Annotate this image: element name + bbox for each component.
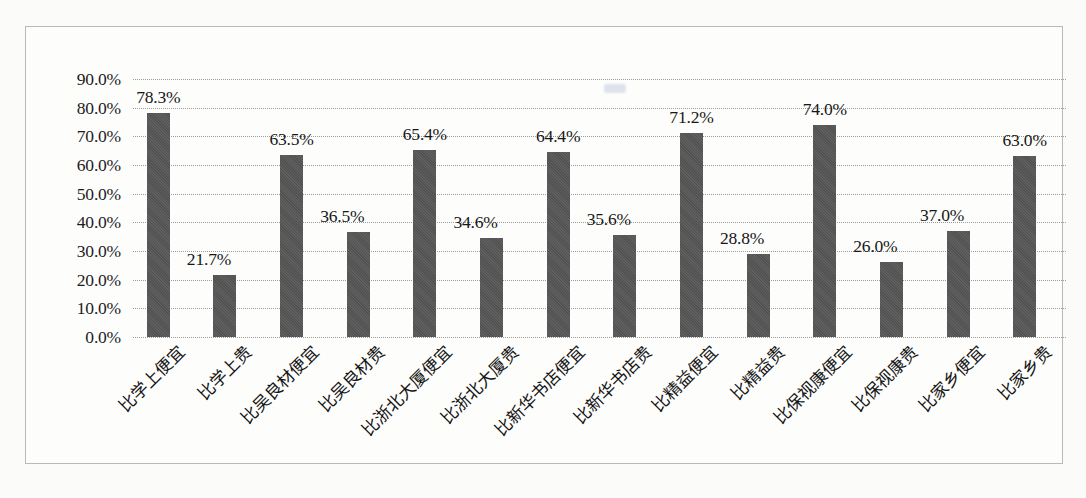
bar-value-label: 63.5% — [269, 129, 313, 150]
bar-value-label: 28.8% — [720, 228, 764, 249]
bar[interactable] — [480, 238, 503, 337]
y-axis: 0.0%10.0%20.0%30.0%40.0%50.0%60.0%70.0%8… — [51, 79, 127, 337]
gridline — [133, 251, 1066, 252]
bar-value-label: 36.5% — [320, 206, 364, 227]
bar-value-label: 74.0% — [803, 99, 847, 120]
bar-value-label: 71.2% — [669, 107, 713, 128]
bar-value-label: 34.6% — [453, 212, 497, 233]
bar[interactable] — [147, 113, 170, 337]
y-axis-tick-label: 50.0% — [77, 183, 121, 204]
scanned-page-background: 0.0%10.0%20.0%30.0%40.0%50.0%60.0%70.0%8… — [0, 0, 1086, 498]
gridline — [133, 337, 1066, 338]
bar[interactable] — [1013, 156, 1036, 337]
bar-value-label: 65.4% — [403, 124, 447, 145]
bar-value-label: 78.3% — [136, 87, 180, 108]
gridline — [133, 308, 1066, 309]
y-axis-tick-label: 30.0% — [77, 241, 121, 262]
bar[interactable] — [213, 275, 236, 337]
gridline — [133, 165, 1066, 166]
y-axis-tick-label: 20.0% — [77, 269, 121, 290]
x-axis-category-label: 比保视康贵 — [845, 339, 923, 417]
y-axis-tick-label: 40.0% — [77, 212, 121, 233]
gridline — [133, 280, 1066, 281]
chart-frame: 0.0%10.0%20.0%30.0%40.0%50.0%60.0%70.0%8… — [25, 26, 1063, 464]
bar[interactable] — [613, 235, 636, 337]
x-axis-category-label: 比家乡贵 — [991, 339, 1057, 405]
plot-area: 78.3%21.7%63.5%36.5%65.4%34.6%64.4%35.6%… — [133, 79, 1066, 337]
bar[interactable] — [747, 254, 770, 337]
bar[interactable] — [947, 231, 970, 337]
x-axis-category-label: 比精益便宜 — [645, 339, 723, 417]
bar[interactable] — [813, 125, 836, 337]
x-axis-category-label: 比精益贵 — [724, 339, 790, 405]
y-axis-tick-label: 10.0% — [77, 298, 121, 319]
bar[interactable] — [347, 232, 370, 337]
gridline — [133, 79, 1066, 80]
bar-value-label: 21.7% — [187, 249, 231, 270]
bar[interactable] — [547, 152, 570, 337]
bar-value-label: 64.4% — [536, 126, 580, 147]
y-axis-tick-label: 0.0% — [85, 327, 121, 348]
bar[interactable] — [880, 262, 903, 337]
x-axis-category-label: 比家乡便宜 — [912, 339, 990, 417]
bar-value-label: 63.0% — [1003, 130, 1047, 151]
bar[interactable] — [413, 150, 436, 337]
x-axis-category-label: 比学上贵 — [191, 339, 257, 405]
y-axis-tick-label: 60.0% — [77, 155, 121, 176]
bar[interactable] — [280, 155, 303, 337]
bar-value-label: 35.6% — [587, 209, 631, 230]
y-axis-tick-label: 70.0% — [77, 126, 121, 147]
y-axis-tick-label: 90.0% — [77, 69, 121, 90]
x-axis-category-label: 比学上便宜 — [112, 339, 190, 417]
gridline — [133, 108, 1066, 109]
bar-value-label: 37.0% — [920, 205, 964, 226]
bar-value-label: 26.0% — [853, 236, 897, 257]
bar[interactable] — [680, 133, 703, 337]
gridline — [133, 194, 1066, 195]
x-axis-category-labels: 比学上便宜比学上贵比吴良材便宜比吴良材贵比浙北大厦便宜比浙北大厦贵比新华书店便宜… — [133, 339, 1066, 489]
y-axis-tick-label: 80.0% — [77, 97, 121, 118]
